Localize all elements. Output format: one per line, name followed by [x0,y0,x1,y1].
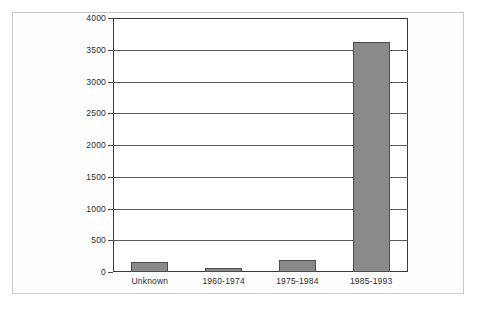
gridline [113,209,408,210]
gridline [113,145,408,146]
y-tick-mark [108,272,113,273]
gridline [113,113,408,114]
y-tick-label: 0 [101,267,106,277]
y-tick-mark [108,18,113,19]
gridline [113,240,408,241]
y-tick-label: 3500 [86,45,106,55]
y-tick-label: 2000 [86,140,106,150]
y-tick-mark [108,240,113,241]
y-tick-mark [108,209,113,210]
chart-figure: 05001000150020002500300035004000 Unknown… [0,0,489,310]
x-axis-label: 1985-1993 [350,276,392,286]
gridline [113,177,408,178]
x-axis-label: 1960-1974 [202,276,244,286]
y-tick-mark [108,113,113,114]
y-tick-mark [108,177,113,178]
x-axis-label: 1975-1984 [276,276,318,286]
gridline [113,50,408,51]
y-tick-mark [108,50,113,51]
x-axis-label: Unknown [131,276,168,286]
y-tick-label: 3000 [86,77,106,87]
plot-region: 05001000150020002500300035004000 [113,18,408,272]
y-tick-mark [108,82,113,83]
y-tick-label: 2500 [86,108,106,118]
y-tick-label: 4000 [86,13,106,23]
gridline [113,82,408,83]
y-tick-label: 1500 [86,172,106,182]
y-tick-mark [108,145,113,146]
y-tick-label: 1000 [86,204,106,214]
x-axis-labels: Unknown1960-19741975-19841985-1993 [113,276,408,292]
y-tick-label: 500 [91,235,106,245]
